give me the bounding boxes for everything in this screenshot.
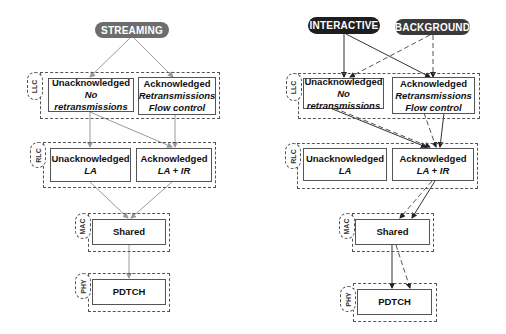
mac-layer-tag: MAC [339, 213, 355, 239]
streaming-class-pill: STREAMING [95, 22, 169, 38]
llc-acknowledged-mode: Acknowledged Retransmissions Flow contro… [392, 77, 475, 114]
rlc-unacknowledged-mode: Unacknowledged LA [50, 148, 131, 182]
rlc-unacknowledged-mode: Unacknowledged LA [303, 148, 387, 181]
rlc-layer-tag: RLC [285, 143, 301, 169]
rlc-acknowledged-mode: Acknowledged LA + IR [136, 148, 212, 182]
rlc-layer-tag: RLC [30, 142, 46, 168]
phy-layer-tag: PHY [340, 286, 356, 312]
llc-acknowledged-mode: Acknowledged Retransmissions Flow contro… [138, 77, 216, 115]
mac-shared-channel: Shared [355, 219, 430, 245]
llc-layer-tag: LLC [286, 73, 302, 101]
diagram-canvas: STREAMING LLC Unacknowledged No retransm… [0, 0, 506, 334]
llc-unacknowledged-mode: Unacknowledged No retransmissions [303, 78, 384, 109]
llc-layer-tag: LLC [27, 72, 43, 100]
phy-pdtch-channel: PDTCH [357, 289, 432, 315]
llc-unacknowledged-mode: Unacknowledged No retransmissions [48, 78, 134, 112]
phy-layer-tag: PHY [75, 273, 91, 299]
rlc-acknowledged-mode: Acknowledged LA + IR [392, 148, 474, 181]
mac-layer-tag: MAC [75, 213, 91, 239]
mac-shared-channel: Shared [92, 219, 166, 245]
background-class-pill: BACKGROUND [395, 19, 470, 35]
interactive-class-pill: INTERACTIVE [308, 17, 380, 34]
phy-pdtch-channel: PDTCH [92, 279, 166, 305]
